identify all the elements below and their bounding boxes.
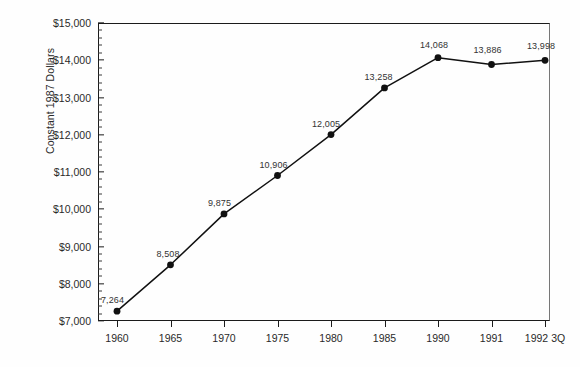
x-axis-tick-label: 1975 — [266, 332, 289, 344]
y-axis-tick-label: $8,000 — [59, 278, 98, 290]
data-point-label: 14,068 — [420, 40, 448, 50]
y-axis-tick-label: $14,000 — [53, 54, 98, 66]
x-axis-tick — [171, 321, 172, 327]
x-axis-tick-label: 1991 — [480, 332, 503, 344]
x-axis-tick — [545, 321, 546, 327]
x-axis-tick — [492, 321, 493, 327]
y-axis-tick-label: $9,000 — [59, 241, 98, 253]
y-axis-tick-label: $7,000 — [59, 315, 98, 327]
y-axis-tick-label: $11,000 — [54, 166, 98, 178]
x-axis-tick — [278, 321, 279, 327]
y-axis-tick-label: $13,000 — [53, 92, 98, 104]
data-point-labels: 7,2648,5089,87510,90612,00513,25814,0681… — [98, 23, 550, 321]
y-axis-tick-label: $12,000 — [53, 129, 98, 141]
data-point-label: 13,258 — [365, 72, 393, 82]
data-point-label: 13,998 — [527, 41, 555, 51]
data-point-label: 9,875 — [208, 198, 231, 208]
x-axis-tick — [385, 321, 386, 327]
x-axis-tick-label: 1985 — [373, 332, 396, 344]
x-axis-ticks — [98, 321, 550, 331]
x-axis-tick-label: 1992 3Q — [525, 332, 565, 344]
data-point-label: 12,005 — [312, 119, 340, 129]
y-axis-tick-label: $10,000 — [53, 203, 98, 215]
x-axis-tick-label: 1990 — [426, 332, 449, 344]
x-axis-tick — [331, 321, 332, 327]
x-axis-tick-label: 1980 — [319, 332, 342, 344]
x-axis-tick-labels: 196019651970197519801985199019911992 3Q — [98, 332, 550, 352]
x-axis-tick-label: 1960 — [105, 332, 128, 344]
x-axis-tick — [438, 321, 439, 327]
y-axis-tick-label: $15,000 — [53, 17, 98, 29]
data-point-label: 13,886 — [474, 45, 502, 55]
x-axis-tick — [117, 321, 118, 327]
x-axis-tick-label: 1965 — [159, 332, 182, 344]
chart-screenshot: Constant 1987 Dollars $15,000$14,000$13,… — [0, 0, 580, 367]
data-point-label: 8,508 — [157, 249, 180, 259]
data-point-label: 10,906 — [260, 160, 288, 170]
data-point-label: 7,264 — [101, 295, 124, 305]
x-axis-tick-label: 1970 — [212, 332, 235, 344]
x-axis-tick — [224, 321, 225, 327]
y-axis-tick-labels: $15,000$14,000$13,000$12,000$11,000$10,0… — [0, 23, 98, 321]
